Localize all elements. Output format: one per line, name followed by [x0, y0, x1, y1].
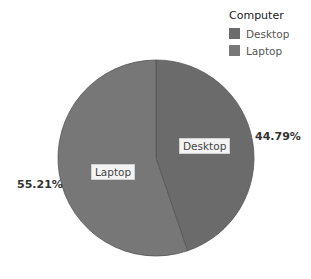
legend-swatch-desktop: [229, 28, 240, 39]
legend-item-desktop[interactable]: Desktop: [229, 25, 289, 42]
legend-swatch-laptop: [229, 45, 240, 56]
slice-label-desktop: Desktop: [179, 138, 230, 154]
legend-label-laptop: Laptop: [246, 45, 282, 57]
pct-label-laptop: 55.21%: [17, 178, 63, 191]
legend-item-laptop[interactable]: Laptop: [229, 42, 289, 59]
legend-label-desktop: Desktop: [246, 28, 289, 40]
legend: Computer Desktop Laptop: [229, 9, 289, 59]
legend-title: Computer: [229, 9, 289, 22]
pct-label-desktop: 44.79%: [255, 130, 301, 143]
slice-label-laptop: Laptop: [91, 164, 135, 180]
